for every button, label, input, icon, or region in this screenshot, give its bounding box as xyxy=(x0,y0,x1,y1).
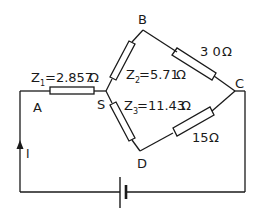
node-s-label: S xyxy=(97,97,105,112)
node-a-label: A xyxy=(33,100,42,115)
current-arrow-icon xyxy=(17,140,24,149)
svg-text:Z: Z xyxy=(124,98,133,113)
z1-label: Z 1 =2.857 Ω xyxy=(31,70,99,88)
node-d-label: D xyxy=(137,156,147,171)
branch-s-d xyxy=(106,91,140,151)
node-c-label: C xyxy=(235,76,244,91)
svg-text:=2.857: =2.857 xyxy=(45,70,93,85)
svg-text:=5.71: =5.71 xyxy=(139,67,179,82)
svg-text:=11.43: =11.43 xyxy=(137,98,185,113)
svg-text:15: 15 xyxy=(192,130,209,145)
battery-icon xyxy=(120,177,126,208)
resistor-z1 xyxy=(50,87,94,94)
node-b-label: B xyxy=(138,12,147,27)
svg-text:Ω: Ω xyxy=(222,44,232,59)
svg-text:Ω: Ω xyxy=(181,98,191,113)
r15-label: 15 Ω xyxy=(192,130,219,145)
circuit-diagram: I A S B C D Z 1 =2.857 Ω Z 2 =5.71 Ω Z 3… xyxy=(0,0,264,222)
svg-text:Z: Z xyxy=(126,67,135,82)
svg-text:3 0: 3 0 xyxy=(200,44,221,59)
r30-label: 3 0 Ω xyxy=(200,44,232,59)
svg-text:Ω: Ω xyxy=(89,70,99,85)
svg-text:Ω: Ω xyxy=(209,130,219,145)
z2-label: Z 2 =5.71 Ω xyxy=(126,67,186,85)
svg-text:Z: Z xyxy=(31,70,40,85)
z3-label: Z 3 =11.43 Ω xyxy=(124,98,191,116)
svg-text:Ω: Ω xyxy=(176,67,186,82)
current-label: I xyxy=(26,147,30,161)
